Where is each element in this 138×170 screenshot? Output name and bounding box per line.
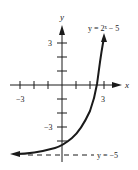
- x-tick-label-neg3: −3: [16, 95, 25, 104]
- asymptote-label: y = −5: [97, 151, 118, 160]
- curve-end-arrow-icon: [101, 33, 107, 42]
- y-tick-label-3: 3: [48, 39, 52, 48]
- y-axis-label: y: [59, 12, 64, 22]
- curve: [16, 38, 104, 154]
- x-tick-label-3: 3: [101, 95, 105, 104]
- x-axis-label: x: [124, 80, 129, 90]
- y-axis-arrow-icon: [59, 25, 65, 35]
- curve-label: y = 2ˣ − 5: [88, 24, 119, 33]
- curve-start-arrow-icon: [10, 151, 20, 157]
- y-tick-label-neg3: −3: [44, 123, 53, 132]
- x-axis-arrow-icon: [112, 82, 122, 88]
- graph: y x y = 2ˣ − 5 y = −5 −3 3 3 −3: [0, 0, 138, 170]
